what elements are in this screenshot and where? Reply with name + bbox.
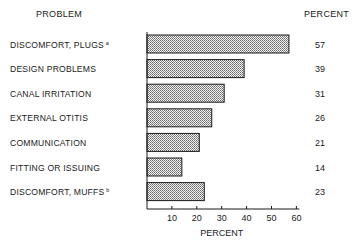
category-label: DISCOMFORT, MUFFS b — [10, 187, 109, 197]
bar — [147, 109, 212, 127]
bar — [147, 60, 244, 78]
bar-chart: DISCOMFORT, PLUGS aDESIGN PROBLEMSCANAL … — [0, 0, 360, 245]
x-tick-label: 10 — [167, 213, 177, 223]
x-axis-title: PERCENT — [200, 228, 244, 238]
value-label: 39 — [315, 64, 325, 74]
bar — [147, 84, 224, 102]
value-label: 31 — [315, 89, 325, 99]
x-tick-label: 50 — [266, 213, 276, 223]
category-label: CANAL IRRITATION — [10, 89, 91, 99]
bar — [147, 35, 289, 53]
category-label: EXTERNAL OTITIS — [10, 113, 88, 123]
value-label: 26 — [315, 113, 325, 123]
category-label: DISCOMFORT, PLUGS a — [10, 40, 110, 50]
value-label: 57 — [315, 40, 325, 50]
bar — [147, 183, 204, 201]
category-label: DESIGN PROBLEMS — [10, 64, 96, 74]
category-label: FITTING OR ISSUING — [10, 163, 100, 173]
x-tick-label: 60 — [291, 213, 301, 223]
footnote-mark: a — [104, 40, 110, 46]
bar — [147, 158, 182, 176]
x-tick-label: 40 — [242, 213, 252, 223]
bar — [147, 133, 199, 151]
value-label: 23 — [315, 187, 325, 197]
category-label: COMMUNICATION — [10, 138, 86, 148]
x-tick-label: 30 — [217, 213, 227, 223]
value-label: 21 — [315, 138, 325, 148]
footnote-mark: b — [104, 187, 109, 193]
x-tick-label: 20 — [192, 213, 202, 223]
value-label: 14 — [315, 163, 325, 173]
